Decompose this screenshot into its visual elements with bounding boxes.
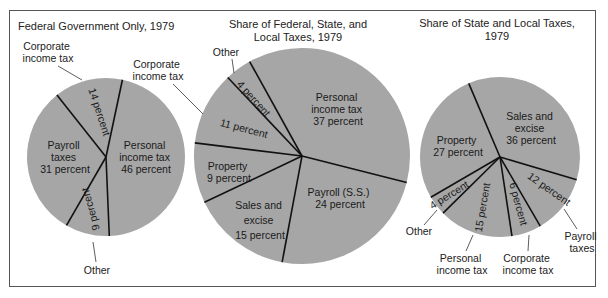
chart-2-label-payroll: Payroll (S.S.) 24 percent [308,186,373,210]
chart-1-arrow-other [93,242,96,262]
chart-1-title: Federal Government Only, 1979 [18,20,174,32]
chart-3-arrow-corporate [528,235,529,251]
chart-2-label-property: Property 9 percent [207,160,251,184]
pie-charts: Federal Government Only, 1979 Share of F… [0,0,608,298]
chart-2-ext-other: Other [213,46,240,58]
chart-3-title-line-1: Share of State and Local Taxes, [419,17,575,29]
chart-3-ext-personal: Personal income tax [437,252,489,276]
chart-3-arrow-other [424,210,437,225]
chart-2-title-line-2: Local Taxes, 1979 [254,31,342,43]
chart-3-ext-other: Other [406,225,433,237]
chart-3-arrow-payroll [564,209,577,229]
chart-1-ext-other: Other [84,264,111,276]
chart-3-ext-corporate: Corporate income tax [503,252,555,276]
chart-3-arrow-personal [466,235,473,251]
chart-2-label-personal: Personal income tax 37 percent [311,91,365,127]
chart-3-label-property: Property 27 percent [433,134,483,158]
chart-2-ext-corporate: Corporate income tax [133,58,185,82]
chart-2-arrow-other [232,59,234,73]
chart-2-title-line-1: Share of Federal, State, and [229,18,367,30]
chart-1-arrow-corporate [58,66,82,80]
chart-2-arrow-corporate [173,84,203,114]
chart-3-title-line-2: 1979 [485,30,509,42]
chart-1-ext-corporate: Corporate income tax [23,40,75,64]
chart-1-label-personal: Personal income tax 46 percent [119,139,173,175]
chart-3-ext-payroll: Payroll taxes [564,230,599,254]
